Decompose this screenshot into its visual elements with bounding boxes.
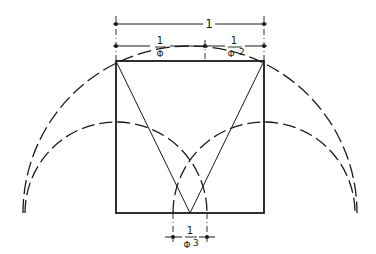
label-bottom-segment: 1 Φ 3 (183, 225, 198, 250)
label-left-segment: 1 Φ (155, 35, 166, 59)
golden-ratio-diagram: 1 1 Φ 1 Φ 2 1 Φ 3 (0, 0, 376, 254)
diagonal-left (116, 61, 190, 213)
diagonal-right (190, 61, 264, 213)
label-right-segment: 1 Φ 2 (227, 35, 244, 59)
svg-text:1: 1 (231, 35, 237, 46)
label-total: 1 (205, 17, 213, 31)
svg-text:3: 3 (193, 238, 199, 248)
svg-text:Φ: Φ (156, 49, 163, 59)
svg-text:1: 1 (157, 35, 163, 46)
svg-text:Φ: Φ (183, 240, 190, 250)
outer-arc (23, 46, 357, 213)
svg-text:1: 1 (187, 225, 193, 236)
svg-text:2: 2 (239, 47, 245, 57)
svg-text:Φ: Φ (227, 49, 234, 59)
square (116, 61, 264, 213)
